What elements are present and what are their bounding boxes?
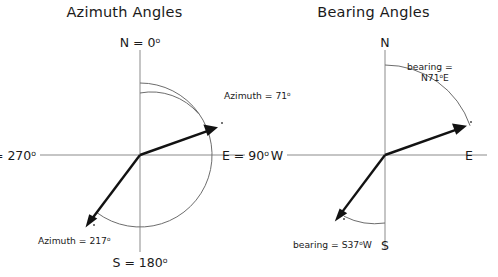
azimuth-west-label: W = 270o — [0, 148, 36, 163]
bearing-ray-s37w-arrowhead — [335, 209, 347, 222]
azimuth-ray-217 — [91, 155, 140, 221]
azimuth-north-label: N = 0o — [120, 35, 161, 50]
bearing-n71e-annotation-line2: N71oE — [421, 72, 449, 83]
bearing-ray-s37w — [341, 155, 386, 214]
bearing-arc-s37w — [344, 216, 385, 223]
azimuth-ray-217-tick — [93, 224, 95, 226]
azimuth-panel: Azimuth Angles N = 0o E = 90o S = 180o W… — [0, 0, 249, 277]
bearing-diagram: N E S W bearing = N71oE bearing = S37oW — [249, 0, 498, 277]
bearing-south-label: S — [381, 238, 389, 253]
bearing-ray-n71e — [385, 128, 460, 155]
azimuth-ray-217-arrowhead — [86, 214, 98, 227]
azimuth-ray-71 — [140, 130, 212, 155]
bearing-ray-s37w-tick — [343, 218, 345, 220]
bearing-west-label: W — [271, 148, 283, 163]
bearing-ray-n71e-tick — [470, 121, 472, 123]
bearing-s37w-annotation: bearing = S37oW — [293, 239, 372, 250]
bearing-north-label: N — [380, 35, 389, 50]
azimuth-diagram: N = 0o E = 90o S = 180o W = 270o Azimuth… — [0, 0, 249, 277]
bearing-n71e-annotation-line1: bearing = — [407, 61, 453, 72]
bearing-east-label: E — [465, 148, 473, 163]
azimuth-217-annotation: Azimuth = 217o — [38, 235, 111, 246]
azimuth-south-label: S = 180o — [113, 255, 168, 270]
bearing-ray-n71e-arrowhead — [452, 123, 467, 134]
azimuth-ray-71-arrowhead — [203, 125, 218, 136]
azimuth-ray-71-tick — [221, 122, 223, 124]
bearing-panel: Bearing Angles N E S W bearing = N71oE b… — [249, 0, 498, 277]
